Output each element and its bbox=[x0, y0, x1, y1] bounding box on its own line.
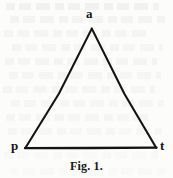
vertex-label-t: t bbox=[160, 139, 164, 152]
triangle-edge-group bbox=[25, 29, 157, 149]
triangle-diagram bbox=[0, 0, 173, 178]
triangle-edge-p-a bbox=[26, 29, 92, 148]
triangle-edge-p-t bbox=[25, 148, 157, 149]
figure-container: a p t Fig. 1. bbox=[0, 0, 173, 178]
vertex-label-a: a bbox=[86, 7, 93, 20]
figure-caption: Fig. 1. bbox=[0, 159, 173, 173]
triangle-edge-a-t bbox=[92, 29, 156, 148]
vertex-label-p: p bbox=[11, 139, 18, 152]
